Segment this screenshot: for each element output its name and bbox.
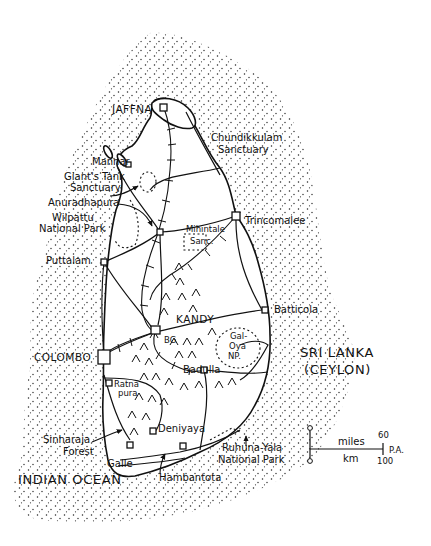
scale-max-km: 100 [377, 456, 393, 466]
label-wilpattu: Wilpattu [52, 212, 94, 223]
label-batticola: Batticola [274, 304, 318, 315]
label-jaffna: JAFFNA [111, 103, 153, 115]
label-ruhuna-np: National Park [218, 454, 285, 465]
label-hambantota: Hambantota [159, 472, 221, 483]
label-sea: INDIAN OCEAN [18, 472, 122, 487]
label-wilpattu-np: National Park [39, 223, 106, 234]
label-gal-oya-2: Oya [229, 341, 246, 351]
label-country-alt: (CEYLON) [304, 362, 371, 377]
town-anuradhapura [157, 229, 163, 235]
town-trincomalee [232, 212, 240, 220]
label-ruhuna-yala: Ruhuna-Yala [222, 442, 282, 453]
label-gal-oya-1: Gal- [230, 331, 247, 341]
label-giants-tank-sanctuary: Sanctuary [70, 182, 121, 193]
town-hambantota [180, 443, 186, 449]
label-trincomalee: Trincomalee [244, 215, 305, 226]
label-chundikkulam-sanctuary: Sanctuary [218, 144, 269, 155]
label-sinharaja-forest: Forest [63, 446, 94, 457]
label-gal-oya-3: NP. [228, 351, 241, 361]
label-kandy: KANDY [176, 313, 214, 325]
label-mannar: Mannar [92, 156, 131, 167]
label-anuradhapura: Anuradhapura [48, 197, 120, 208]
scale-unit-km: km [343, 453, 359, 464]
town-jaffna [160, 104, 167, 111]
label-mihintale: Mihintale [186, 224, 225, 234]
label-bg: BG [164, 335, 176, 345]
town-deniyaya [150, 428, 156, 434]
label-puttalam: Puttalam [46, 255, 91, 266]
sri-lanka-map: JAFFNA Chundikkulam Sanctuary Mannar Gia… [0, 0, 431, 546]
label-chundikkulam: Chundikkulam [211, 132, 282, 143]
label-sinharaja: Sinharaja [43, 434, 90, 445]
town-puttalam [101, 259, 107, 265]
town-ratnapura [106, 380, 112, 386]
town-batticola [262, 307, 268, 313]
label-galle: Galle [107, 458, 133, 469]
label-mihintale-sanc: Sanc. [190, 236, 213, 246]
town-colombo [98, 350, 110, 364]
scale-unit-miles: miles [338, 436, 365, 447]
label-ratnapura-2: pura [118, 388, 138, 398]
artist-signature: P.A. [389, 445, 404, 455]
label-colombo: COLOMBO [34, 351, 91, 363]
town-kandy [151, 326, 160, 334]
scale-max-miles: 60 [378, 430, 389, 440]
label-badulla: Badulla [183, 364, 220, 375]
town-galle [127, 442, 133, 448]
label-giants-tank: Giant's Tank [64, 171, 125, 182]
label-deniyaya: Deniyaya [158, 423, 205, 434]
label-country: SRI LANKA [300, 345, 374, 360]
